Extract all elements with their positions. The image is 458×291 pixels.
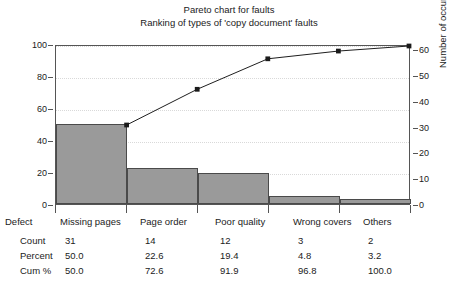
tick-mark	[48, 77, 53, 78]
tick-mark	[413, 128, 418, 129]
table-cell: 100.0	[368, 265, 392, 276]
tick-mark	[413, 50, 418, 51]
column-header-3: Wrong covers	[293, 216, 351, 227]
table-cell: 72.6	[145, 265, 164, 276]
table-row-label: Cum %	[20, 265, 51, 276]
column-header-2: Poor quality	[215, 216, 265, 227]
table-cell: 3.2	[368, 250, 381, 261]
table-row-label: Percent	[20, 250, 53, 261]
right-tick-label: 50	[419, 72, 458, 81]
tick-mark	[48, 141, 53, 142]
table-row-header: Defect Missing pages Page order Poor qua…	[0, 216, 458, 235]
left-tick-label: 80	[7, 73, 47, 82]
tick-mark	[48, 173, 53, 174]
left-tick-label: 40	[7, 137, 47, 146]
tick-mark	[48, 45, 53, 46]
table-header-label: Defect	[5, 216, 32, 227]
cumulative-marker	[336, 49, 341, 54]
chart-title: Pareto chart for faults	[0, 4, 458, 17]
table-row-label: Count	[20, 235, 45, 246]
plot-area	[55, 45, 410, 205]
tick-mark	[413, 102, 418, 103]
cumulative-marker	[265, 56, 270, 61]
column-header-1: Page order	[140, 216, 187, 227]
right-axis-title: Number of occurrences	[437, 0, 448, 68]
right-tick-label: 60	[419, 46, 458, 55]
table-cell: 19.4	[220, 250, 239, 261]
table-cell: 4.8	[298, 250, 311, 261]
table-cell: 96.8	[298, 265, 317, 276]
table-cell: 2	[368, 235, 373, 246]
cumulative-marker	[195, 87, 200, 92]
table-cell: 14	[145, 235, 156, 246]
left-tick-label: 0	[7, 201, 47, 210]
x-tick-mark	[268, 205, 269, 213]
cumulative-percent-line	[56, 46, 409, 204]
right-tick-label: 20	[419, 149, 458, 158]
tick-mark	[48, 109, 53, 110]
table-cell: 50.0	[65, 250, 84, 261]
tick-mark	[413, 205, 418, 206]
left-tick-label: 60	[7, 105, 47, 114]
left-tick-label: 20	[7, 169, 47, 178]
cumulative-marker	[124, 123, 129, 128]
x-tick-mark	[126, 205, 127, 213]
x-tick-mark	[55, 205, 56, 213]
x-tick-mark	[197, 205, 198, 213]
right-tick-label: 0	[419, 201, 458, 210]
left-tick-label: 100	[7, 41, 47, 50]
tick-mark	[413, 76, 418, 77]
right-tick-label: 10	[419, 175, 458, 184]
chart-subtitle: Ranking of types of 'copy document' faul…	[0, 17, 458, 30]
column-header-0: Missing pages	[60, 216, 121, 227]
table-cell: 22.6	[145, 250, 164, 261]
x-tick-mark	[339, 205, 340, 213]
table-cell: 91.9	[220, 265, 239, 276]
x-tick-mark	[410, 205, 411, 213]
table-cell: 3	[298, 235, 303, 246]
tick-mark	[413, 153, 418, 154]
table-row: Cum %50.072.691.996.8100.0	[0, 265, 458, 280]
table-cell: 50.0	[65, 265, 84, 276]
cumulative-marker	[407, 44, 412, 49]
pareto-chart-figure: Pareto chart for faults Ranking of types…	[0, 0, 458, 291]
tick-mark	[413, 179, 418, 180]
table-row: Count31141232	[0, 235, 458, 250]
column-header-4: Others	[363, 216, 392, 227]
tick-mark	[48, 205, 53, 206]
table-row: Percent50.022.619.44.83.2	[0, 250, 458, 265]
table-cell: 12	[220, 235, 231, 246]
table-body: Count31141232Percent50.022.619.44.83.2Cu…	[0, 235, 458, 280]
table-cell: 31	[65, 235, 76, 246]
right-tick-label: 30	[419, 124, 458, 133]
chart-title-block: Pareto chart for faults Ranking of types…	[0, 4, 458, 29]
right-tick-label: 40	[419, 98, 458, 107]
data-table: Defect Missing pages Page order Poor qua…	[0, 216, 458, 280]
